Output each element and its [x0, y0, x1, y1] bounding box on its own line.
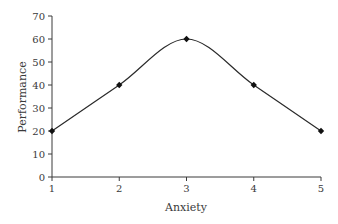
x-axis-ticks: 12345	[49, 177, 324, 194]
y-tick-label: 50	[32, 57, 45, 68]
x-tick-label: 4	[251, 183, 257, 194]
x-tick-label: 1	[49, 183, 55, 194]
x-tick-label: 5	[318, 183, 324, 194]
x-tick-label: 3	[183, 183, 189, 194]
data-point-markers	[49, 36, 324, 134]
x-tick-label: 2	[116, 183, 122, 194]
y-axis-ticks: 010203040506070	[32, 11, 52, 183]
y-tick-label: 60	[32, 34, 45, 45]
y-tick-label: 20	[32, 126, 45, 137]
x-axis-title: Anxiety	[164, 201, 208, 214]
y-tick-label: 0	[39, 172, 45, 183]
y-tick-label: 70	[32, 11, 45, 22]
y-tick-label: 30	[32, 103, 45, 114]
y-tick-label: 40	[32, 80, 45, 91]
performance-curve	[52, 39, 321, 131]
line-chart: 010203040506070 12345 Performance Anxiet…	[0, 0, 338, 224]
y-tick-label: 10	[32, 149, 45, 160]
diamond-marker-icon	[183, 36, 189, 42]
y-axis-title: Performance	[16, 61, 29, 132]
